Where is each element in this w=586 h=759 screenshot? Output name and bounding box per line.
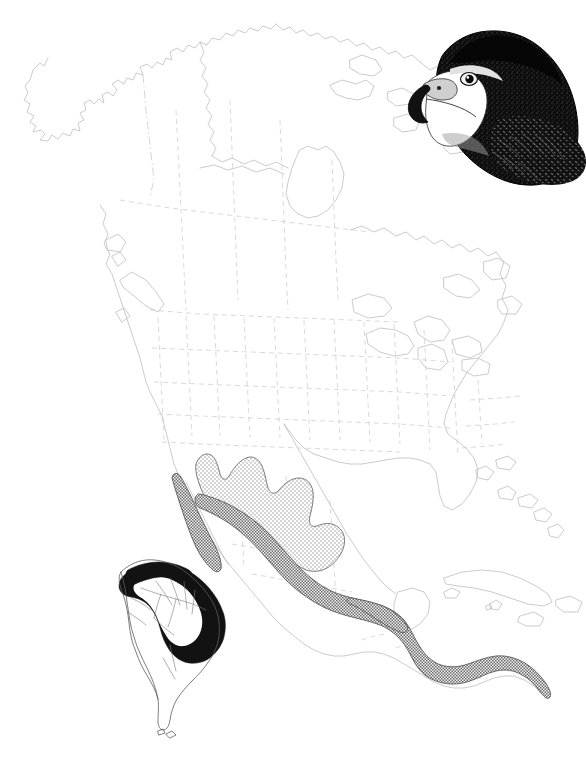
caribbean-islands bbox=[444, 456, 582, 626]
us-atlantic-gulf-coastline bbox=[284, 252, 508, 510]
south-america-inset bbox=[119, 560, 225, 738]
alaska-coastline bbox=[24, 24, 276, 141]
hawk-nostril bbox=[437, 86, 441, 90]
bird-of-prey-head-illustration bbox=[406, 22, 586, 187]
hawk-eye bbox=[461, 73, 478, 86]
mexico-central-america-coastline bbox=[172, 424, 542, 694]
illustration-plate bbox=[0, 0, 586, 759]
great-lakes bbox=[352, 294, 490, 376]
range-dense-stipple bbox=[172, 473, 551, 698]
pacific-coastline bbox=[100, 205, 174, 464]
